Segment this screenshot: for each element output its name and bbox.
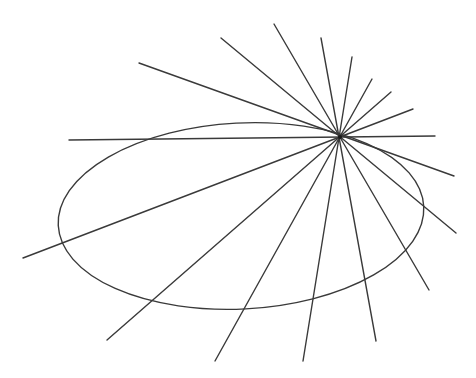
ray-line-9 xyxy=(69,136,435,140)
ray-line-6 xyxy=(215,79,372,361)
ray-line-7 xyxy=(107,92,391,340)
ray-line-4 xyxy=(321,38,376,341)
ray-line-8 xyxy=(23,109,413,258)
ray-line-1 xyxy=(139,63,454,176)
ray-line-5 xyxy=(303,57,352,361)
concurrency-point xyxy=(338,135,342,139)
ellipse xyxy=(53,114,428,319)
rays-group xyxy=(23,24,456,361)
pencil-of-lines-diagram xyxy=(0,0,476,378)
